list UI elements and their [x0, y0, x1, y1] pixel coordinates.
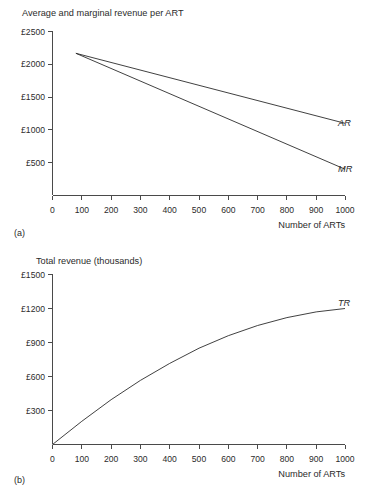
panel-a-xtick-100: 100: [75, 205, 90, 215]
panel-b-xtick-0: 0: [50, 454, 55, 464]
panel-b-ytick-900: £900: [26, 338, 45, 348]
panel-b-xtick-600: 600: [221, 454, 236, 464]
panel-a-y-ticks: [48, 32, 53, 163]
panel-b-xtick-300: 300: [133, 454, 148, 464]
panel-b-xtick-500: 500: [192, 454, 207, 464]
panel-b-ytick-1200: £1200: [21, 304, 45, 314]
series-line-mr: [76, 53, 345, 169]
panel-a-xtick-1000: 1000: [335, 205, 354, 215]
panel-a-xtick-700: 700: [250, 205, 265, 215]
panel-a-x-ticks: [53, 196, 346, 201]
panel-a-ytick-1000: £1000: [21, 125, 45, 135]
series-line-ar: [76, 53, 345, 123]
series-label-tr: TR: [338, 298, 351, 308]
series-line-tr: [53, 309, 346, 445]
panel-b-xtick-200: 200: [104, 454, 119, 464]
panel-a-ytick-2500: £2500: [21, 27, 45, 37]
panel-b-xtick-800: 800: [280, 454, 295, 464]
panel-b-xtick-1000: 1000: [335, 454, 354, 464]
figure-canvas: Average and marginal revenue per ART £25…: [0, 0, 368, 501]
panel-a-xtick-300: 300: [133, 205, 148, 215]
panel-b-ytick-1500: £1500: [21, 270, 45, 280]
panel-b-xtick-900: 900: [309, 454, 324, 464]
panel-a: Average and marginal revenue per ART £25…: [14, 8, 355, 238]
panel-a-ytick-2000: £2000: [21, 59, 45, 69]
panel-b-xtick-100: 100: [75, 454, 90, 464]
series-label-mr: MR: [338, 164, 353, 174]
series-label-ar: AR: [337, 118, 351, 128]
panel-b-x-ticks: [53, 445, 346, 450]
panel-a-xtick-200: 200: [104, 205, 119, 215]
panel-a-x-axis-label: Number of ARTs: [278, 220, 345, 230]
panel-a-ytick-500: £500: [26, 158, 45, 168]
panel-b-xtick-700: 700: [250, 454, 265, 464]
panel-a-xtick-800: 800: [280, 205, 295, 215]
panel-a-xtick-900: 900: [309, 205, 324, 215]
panel-b-label: (b): [14, 475, 25, 485]
panel-a-title: Average and marginal revenue per ART: [22, 8, 184, 18]
panel-a-xtick-600: 600: [221, 205, 236, 215]
panel-b-y-ticks: [48, 275, 53, 411]
economics-revenue-figure: Average and marginal revenue per ART £25…: [0, 0, 368, 501]
panel-a-ytick-1500: £1500: [21, 92, 45, 102]
panel-b-ytick-300: £300: [26, 406, 45, 416]
panel-a-label: (a): [14, 228, 25, 238]
panel-a-xtick-500: 500: [192, 205, 207, 215]
panel-a-xtick-400: 400: [163, 205, 178, 215]
panel-b-title: Total revenue (thousands): [36, 256, 142, 266]
panel-b-x-axis-label: Number of ARTs: [278, 469, 345, 479]
panel-a-xtick-0: 0: [50, 205, 55, 215]
panel-b: Total revenue (thousands) £1500 £1200 £9…: [14, 256, 355, 485]
panel-b-xtick-400: 400: [163, 454, 178, 464]
panel-b-ytick-600: £600: [26, 372, 45, 382]
